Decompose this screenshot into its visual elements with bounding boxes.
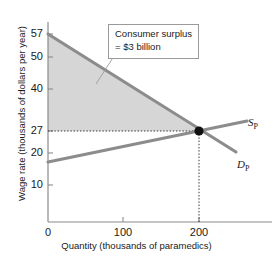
y-axis-title: Wage rate (thousands of dollars per year… xyxy=(16,14,27,214)
supply-curve-label: SP xyxy=(248,116,258,131)
demand-curve-label: DP xyxy=(237,158,249,173)
x-axis-title: Quantity (thousands of paramedics) xyxy=(0,240,273,251)
x-tick-label-100: 100 xyxy=(103,226,143,238)
consumer-surplus-callout: Consumer surplus = $3 billion xyxy=(108,24,199,59)
consumer-surplus-chart: 57 50 40 27 20 10 0 100 200 Wage rate (t… xyxy=(0,0,273,259)
x-tick-label-200: 200 xyxy=(179,226,219,238)
x-tick-label-0: 0 xyxy=(28,226,68,238)
equilibrium-point-marker xyxy=(194,126,203,135)
callout-line-2: = $3 billion xyxy=(115,41,192,54)
callout-line-1: Consumer surplus xyxy=(115,28,192,41)
